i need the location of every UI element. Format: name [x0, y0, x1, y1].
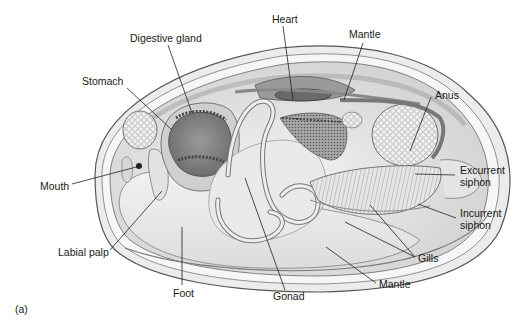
label-mantle-top: Mantle [349, 28, 381, 40]
label-mantle-bottom: Mantle [379, 278, 411, 290]
label-excurrent-siphon: Excurrent siphon [460, 164, 505, 188]
label-digestive-gland: Digestive gland [130, 32, 202, 44]
label-gills: Gills [418, 252, 438, 264]
label-stomach: Stomach [82, 75, 123, 87]
panel-label: (a) [15, 303, 28, 315]
clam-anatomy-diagram: Digestive gland Heart Mantle Stomach Anu… [0, 0, 531, 325]
label-anus: Anus [435, 89, 459, 101]
posterior-adductor [372, 104, 438, 166]
label-incurrent-line2: siphon [460, 219, 501, 231]
label-foot: Foot [173, 287, 194, 299]
label-heart: Heart [272, 13, 298, 25]
label-gonad: Gonad [273, 290, 305, 302]
label-labial-palp: Labial palp [58, 246, 109, 258]
label-incurrent-line1: Incurrent [460, 207, 501, 219]
label-excurrent-line2: siphon [460, 176, 505, 188]
label-excurrent-line1: Excurrent [460, 164, 505, 176]
clam-illustration [0, 0, 531, 325]
label-incurrent-siphon: Incurrent siphon [460, 207, 501, 231]
label-mouth: Mouth [40, 180, 69, 192]
anterior-adductor [123, 111, 157, 149]
